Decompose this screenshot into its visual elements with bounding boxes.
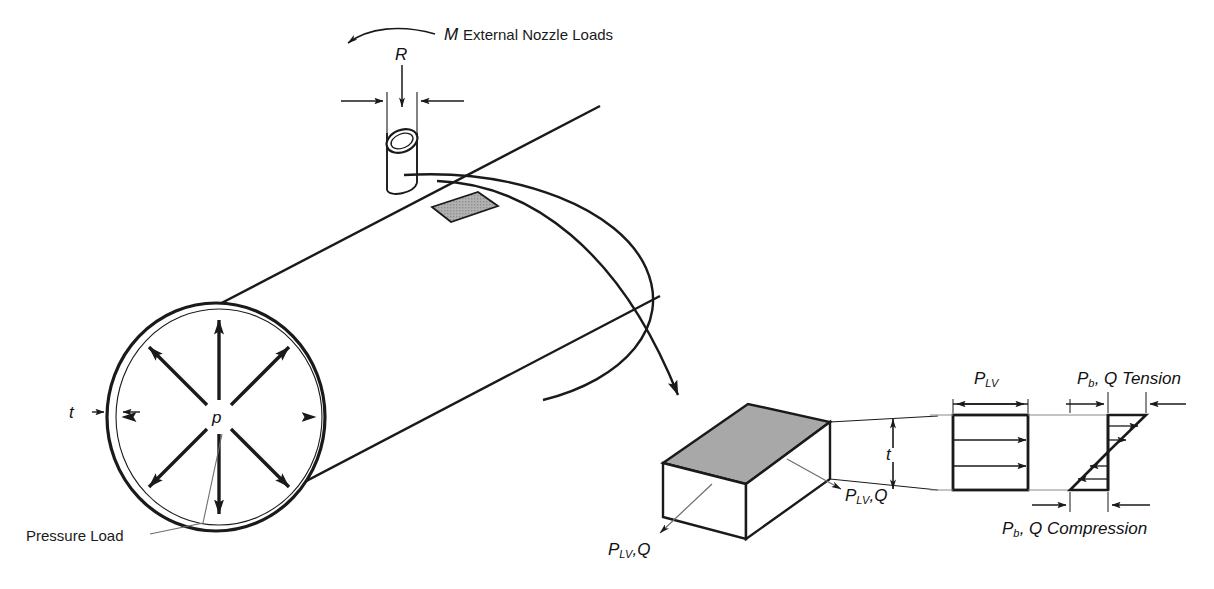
element-load-left-label: PLV,Q (608, 541, 651, 560)
element-thickness-dimension (830, 416, 938, 490)
membrane-stress-p: P (974, 369, 985, 388)
bending-compression-p: P (1002, 519, 1013, 538)
membrane-stress-rect (953, 415, 1028, 490)
moment-curved-arrow (348, 28, 435, 43)
bending-compression-triangle (1070, 452, 1108, 490)
external-nozzle-loads-label: External Nozzle Loads (463, 27, 613, 42)
shaded-wall-element-patch (432, 192, 498, 222)
bending-tension-triangle (1108, 415, 1146, 452)
thk-ext-top (830, 416, 938, 422)
element-load-right-p: P (845, 486, 856, 505)
bending-tension-p: P (1077, 369, 1088, 388)
element-load-right-label: PLV,Q (845, 487, 888, 506)
pressure-load-label: Pressure Load (26, 528, 124, 543)
bending-compression-rest: , Q Compression (1020, 519, 1148, 538)
linear-bending-stress-bowtie (1032, 392, 1186, 512)
element-load-right-q: ,Q (870, 486, 888, 505)
membrane-stress-sub: LV (985, 377, 998, 389)
bending-compression-label: Pb, Q Compression (1002, 520, 1147, 539)
nozzle-radius-label: R (395, 46, 407, 63)
element-load-left-q: ,Q (633, 540, 651, 559)
uniform-membrane-stress-block (930, 399, 1108, 490)
nozzle-base (387, 183, 417, 194)
wall-thickness-label: t (69, 404, 74, 421)
isometric-wall-element-block (663, 404, 830, 539)
nozzle-radius-dimension (341, 65, 464, 133)
pressure-vessel-figure: M External Nozzle Loads R p t Pressure L… (0, 0, 1214, 589)
moment-symbol: M (444, 26, 458, 43)
bending-tension-rest: , Q Tension (1095, 369, 1181, 388)
membrane-stress-label: PLV (974, 370, 999, 389)
element-load-left-p: P (608, 540, 619, 559)
element-load-right-sub: LV (856, 494, 869, 506)
nozzle-stub (383, 125, 421, 194)
bending-tension-label: Pb, Q Tension (1077, 370, 1181, 389)
figure-canvas (0, 0, 1214, 589)
pressure-symbol-label: p (212, 409, 221, 426)
element-thickness-label: t (886, 446, 891, 463)
element-load-left-sub: LV (619, 548, 632, 560)
cylindrical-pressure-vessel (107, 106, 660, 531)
